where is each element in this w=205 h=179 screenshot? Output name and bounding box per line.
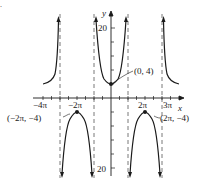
arrow-down-icon <box>158 172 162 178</box>
point-neg2pi-neg4 <box>75 110 79 114</box>
secant-graph: y x 20 20 −4π −2π 2π 3π (0, 4) (−2π, −4)… <box>0 0 205 179</box>
tick-label-neg4pi: −4π <box>33 100 48 110</box>
point-0-4 <box>109 82 113 86</box>
arrow-down-icon <box>90 172 94 178</box>
y-axis-arrow-icon <box>109 11 113 16</box>
tick-label-3pi: 3π <box>163 100 173 110</box>
x-axis-label: x <box>177 103 182 113</box>
branch-lower-left <box>62 112 92 174</box>
point-label-2pi: (2π, −4) <box>160 113 189 123</box>
arrow-up-icon <box>124 16 128 22</box>
branch-left-upper <box>43 20 59 84</box>
point-2pi-neg4 <box>143 110 147 114</box>
tick-label-2pi: 2π <box>138 100 148 110</box>
arrow-up-icon <box>94 16 98 22</box>
point-label-neg2pi: (−2π, −4) <box>7 113 41 123</box>
tick-label-20: 20 <box>98 23 108 33</box>
y-axis-label: y <box>101 8 106 18</box>
x-axis-arrow-icon <box>179 96 184 100</box>
branch-right-upper <box>164 20 180 84</box>
arrow-down-icon <box>128 172 132 178</box>
tick-label-neg20: 20 <box>97 164 107 174</box>
arrow-down-icon <box>60 172 64 178</box>
point-label-0-4: (0, 4) <box>134 66 154 76</box>
branch-lower-right <box>130 112 160 174</box>
axes <box>33 11 184 176</box>
tick-label-neg2pi: −2π <box>68 100 83 110</box>
